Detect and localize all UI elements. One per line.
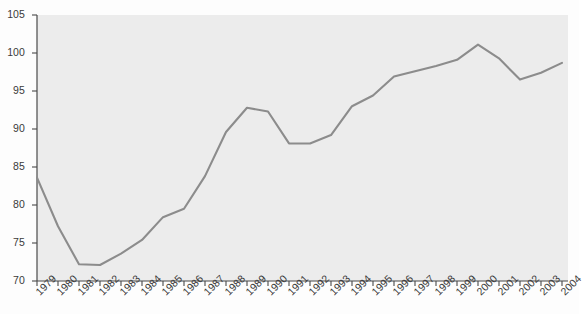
y-tick-label: 90 — [0, 122, 25, 134]
y-tick-label: 100 — [0, 46, 25, 58]
y-tick-label: 85 — [0, 160, 25, 172]
y-tick-marks — [32, 15, 37, 281]
plot-area-background — [37, 15, 568, 281]
y-tick-label: 95 — [0, 84, 25, 96]
y-tick-label: 75 — [0, 236, 25, 248]
y-tick-label: 80 — [0, 198, 25, 210]
y-tick-label: 70 — [0, 274, 25, 286]
y-tick-label: 105 — [0, 8, 25, 20]
